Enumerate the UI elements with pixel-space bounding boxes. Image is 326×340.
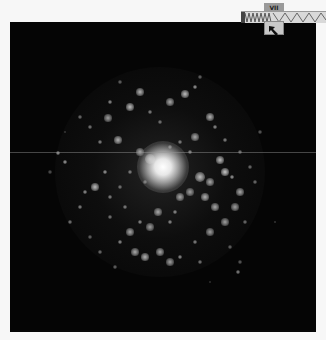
- star-knot: [146, 223, 153, 230]
- star-knot: [131, 248, 138, 255]
- star-knot: [206, 228, 213, 235]
- star-knot: [126, 103, 133, 110]
- star-knot: [114, 136, 121, 143]
- star-knot: [166, 98, 173, 105]
- star-knot: [156, 248, 163, 255]
- pointer-tool-button[interactable]: [264, 21, 284, 35]
- image-viewer[interactable]: [10, 22, 316, 332]
- toolbar-tab[interactable]: VII: [264, 3, 284, 12]
- star-knot: [211, 203, 218, 210]
- star-knot: [236, 188, 243, 195]
- star-knot: [209, 281, 211, 283]
- arrow-pointer-icon: [265, 25, 283, 37]
- star-knot: [201, 193, 208, 200]
- star-knot: [126, 228, 133, 235]
- star-knot: [136, 88, 143, 95]
- scan-line-artifact: [10, 152, 316, 153]
- star-knot: [216, 156, 223, 163]
- star-knot: [166, 258, 173, 265]
- star-knot: [231, 203, 238, 210]
- star-knot: [181, 90, 188, 97]
- star-knot: [238, 260, 243, 265]
- star-knot: [104, 114, 111, 121]
- star-knot: [236, 270, 241, 275]
- star-knot: [113, 265, 118, 270]
- star-knot: [154, 208, 161, 215]
- star-knot: [48, 170, 53, 175]
- star-knot: [141, 253, 148, 260]
- star-knot: [176, 193, 183, 200]
- star-knot: [221, 218, 228, 225]
- star-knot: [206, 178, 213, 185]
- star-knot: [195, 172, 205, 182]
- star-knot: [221, 168, 228, 175]
- galaxy-core: [137, 141, 189, 193]
- star-knot: [274, 221, 276, 223]
- star-knot: [258, 130, 263, 135]
- star-knot: [206, 113, 213, 120]
- star-knot: [186, 188, 193, 195]
- star-knot: [191, 133, 198, 140]
- star-knot: [91, 183, 98, 190]
